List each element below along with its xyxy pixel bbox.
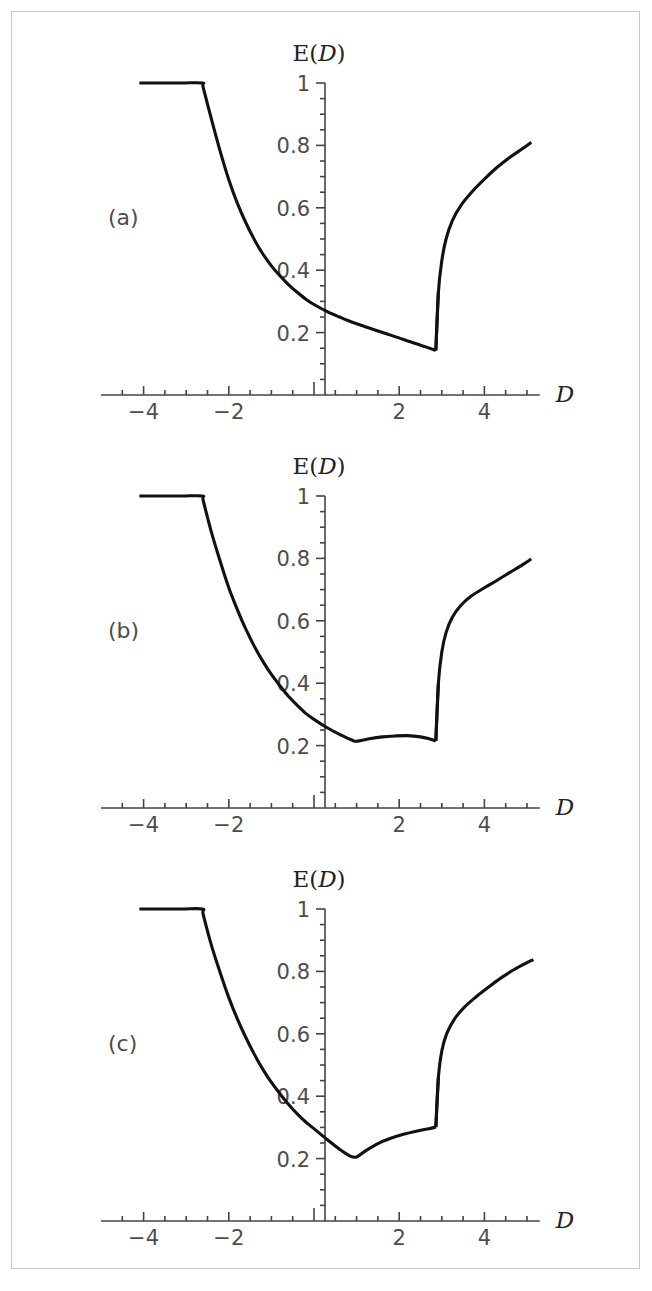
plot-panel-c: −4−2240.20.40.60.81E(D)D(c) <box>12 838 641 1257</box>
panel-label: (c) <box>108 1031 137 1056</box>
data-curve <box>436 559 531 741</box>
x-axis-tick-label: −4 <box>128 1226 159 1250</box>
data-curve-jump <box>436 683 439 741</box>
y-axis-tick-label: 0.6 <box>277 1023 310 1047</box>
plot-panel-b: −4−2240.20.40.60.81E(D)D(b) <box>12 425 641 844</box>
y-axis-tick-label: 0.8 <box>277 547 310 571</box>
y-axis-tick-label: 1 <box>297 485 310 509</box>
y-axis-title: E(D) <box>292 866 345 892</box>
data-curve <box>436 142 531 350</box>
x-axis-tick-label: −4 <box>128 400 159 424</box>
y-axis-tick-label: 0.4 <box>277 672 310 696</box>
x-axis-tick-label: −2 <box>213 400 244 424</box>
x-axis-tick-label: 4 <box>478 1226 491 1250</box>
y-axis-tick-label: 1 <box>297 898 310 922</box>
x-axis-tick-label: 2 <box>393 400 406 424</box>
plot-panel-a: −4−2240.20.40.60.81E(D)D(a) <box>12 12 641 431</box>
y-axis-tick-label: 0.6 <box>277 610 310 634</box>
data-curve-jump <box>436 292 439 350</box>
axes-group: −4−2240.20.40.60.81 <box>101 72 540 424</box>
panel-label: (a) <box>108 205 139 230</box>
x-axis-tick-label: −2 <box>213 1226 244 1250</box>
x-axis-tick-label: −2 <box>213 813 244 837</box>
axes-group: −4−2240.20.40.60.81 <box>101 898 540 1250</box>
x-axis-tick-label: 4 <box>478 400 491 424</box>
x-axis-tick-label: 2 <box>393 813 406 837</box>
x-axis-title: D <box>555 1207 574 1233</box>
y-axis-tick-label: 0.8 <box>277 960 310 984</box>
y-axis-tick-label: 1 <box>297 72 310 96</box>
data-curve-jump <box>436 1077 439 1127</box>
x-axis-title: D <box>555 794 574 820</box>
y-axis-tick-label: 0.2 <box>277 322 310 346</box>
axes-group: −4−2240.20.40.60.81 <box>101 485 540 837</box>
x-axis-tick-label: 4 <box>478 813 491 837</box>
y-axis-tick-label: 0.2 <box>277 735 310 759</box>
x-axis-tick-label: 2 <box>393 1226 406 1250</box>
data-curve <box>436 960 534 1128</box>
chart-svg-c: −4−2240.20.40.60.81E(D)D(c) <box>12 838 641 1257</box>
chart-svg-a: −4−2240.20.40.60.81E(D)D(a) <box>12 12 641 431</box>
y-axis-title: E(D) <box>292 40 345 66</box>
chart-svg-b: −4−2240.20.40.60.81E(D)D(b) <box>12 425 641 844</box>
y-axis-tick-label: 0.2 <box>277 1148 310 1172</box>
panel-label: (b) <box>108 618 139 643</box>
y-axis-tick-label: 0.6 <box>277 197 310 221</box>
y-axis-title: E(D) <box>292 453 345 479</box>
x-axis-tick-label: −4 <box>128 813 159 837</box>
y-axis-tick-label: 0.8 <box>277 134 310 158</box>
x-axis-title: D <box>555 381 574 407</box>
figure-frame: −4−2240.20.40.60.81E(D)D(a) −4−2240.20.4… <box>11 11 640 1269</box>
